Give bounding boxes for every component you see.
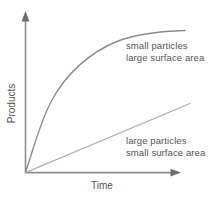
chart-plot-area xyxy=(0,0,216,199)
chart-container: small particles large surface area large… xyxy=(0,0,216,199)
annotation-small-particles: small particles large surface area xyxy=(126,40,204,64)
x-axis-arrowhead xyxy=(171,169,182,177)
y-axis-title: Products xyxy=(6,76,17,132)
y-axis-arrowhead xyxy=(22,11,30,22)
annotation-small-particles-line2: large surface area xyxy=(126,52,204,64)
annotation-large-particles-line1: large particles xyxy=(126,135,205,147)
annotation-large-particles: large particles small surface area xyxy=(126,135,205,159)
annotation-small-particles-line1: small particles xyxy=(126,40,204,52)
x-axis-title: Time xyxy=(62,180,142,191)
annotation-large-particles-line2: small surface area xyxy=(126,147,205,159)
y-axis-title-wrapper: Products xyxy=(0,78,22,134)
